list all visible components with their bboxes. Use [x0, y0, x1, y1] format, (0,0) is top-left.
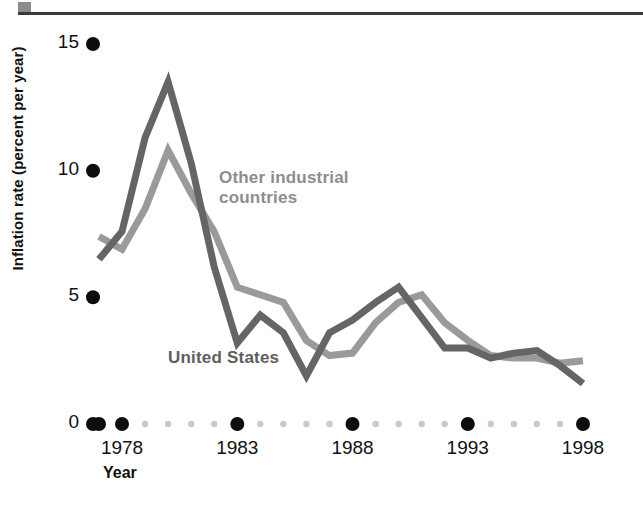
x-tick-dot-minor — [303, 421, 309, 427]
x-tick-dot-minor — [488, 421, 494, 427]
chart-series-lines — [99, 82, 583, 384]
y-tick-label: 0 — [39, 411, 79, 433]
x-tick-dot-minor — [142, 421, 148, 427]
x-tick-dot-major — [230, 417, 244, 431]
series-annotation-other-industrial: Other industrial countries — [219, 168, 349, 208]
y-tick-label: 5 — [39, 284, 79, 306]
y-tick-dot — [86, 37, 100, 51]
x-tick-dot-minor — [511, 421, 517, 427]
y-tick-dot — [86, 417, 100, 431]
x-tick-dot-minor — [211, 421, 217, 427]
x-tick-dot-major — [115, 417, 129, 431]
x-tick-dot-minor — [419, 421, 425, 427]
x-tick-dot-major — [346, 417, 360, 431]
y-tick-label: 10 — [39, 158, 79, 180]
x-tick-dot-minor — [257, 421, 263, 427]
x-tick-dot-major — [576, 417, 590, 431]
y-tick-dot — [86, 290, 100, 304]
y-tick-dot — [86, 164, 100, 178]
chart-canvas — [0, 0, 643, 505]
chart-page: Inflation rate (percent per year) 151050… — [0, 0, 643, 505]
x-tick-dot-minor — [188, 421, 194, 427]
series-line — [99, 82, 583, 384]
x-tick-dot-minor — [534, 421, 540, 427]
x-tick-dot-minor — [165, 421, 171, 427]
x-tick-label: 1978 — [87, 437, 157, 459]
chart-plot-area: Inflation rate (percent per year) 151050… — [0, 0, 643, 505]
x-tick-dot-minor — [372, 421, 378, 427]
x-tick-dot-minor — [395, 421, 401, 427]
series-annotation-other-line2: countries — [219, 188, 297, 207]
x-tick-label: 1998 — [548, 437, 618, 459]
x-tick-label: 1993 — [433, 437, 503, 459]
x-tick-dot-minor — [326, 421, 332, 427]
x-tick-label: 1983 — [202, 437, 272, 459]
series-annotation-other-line1: Other industrial — [219, 168, 349, 187]
y-tick-label: 15 — [39, 31, 79, 53]
y-axis-tick-dots — [86, 37, 100, 431]
x-tick-dot-minor — [280, 421, 286, 427]
series-annotation-united-states: United States — [168, 348, 279, 368]
x-tick-dot-minor — [557, 421, 563, 427]
x-tick-dot-minor — [442, 421, 448, 427]
x-tick-dot-major — [461, 417, 475, 431]
x-tick-label: 1988 — [318, 437, 388, 459]
x-axis-title: Year — [103, 464, 137, 482]
y-axis-title: Inflation rate (percent per year) — [9, 0, 26, 324]
